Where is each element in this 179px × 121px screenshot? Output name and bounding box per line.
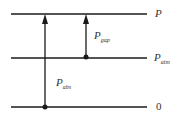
arrow-label-p-abs: Pabs <box>56 77 71 90</box>
level-label-zero: 0 <box>156 101 162 112</box>
level-label-patm: Patm <box>154 52 170 65</box>
arrow-label-p-gap: Pgap <box>94 30 110 43</box>
pressure-diagram <box>0 0 179 121</box>
arrow-p-abs <box>42 14 48 110</box>
arrow-p-gap <box>83 14 89 60</box>
level-label-p: P <box>155 8 162 19</box>
